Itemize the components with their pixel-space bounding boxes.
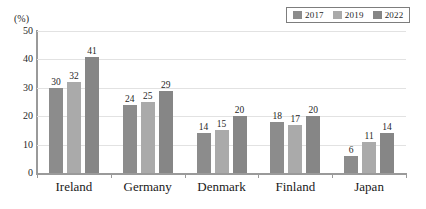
x-label-finland: Finland	[275, 180, 315, 194]
bar-japan-2017[interactable]: 6	[344, 31, 358, 173]
x-tick-3	[258, 174, 259, 178]
bar-rect	[159, 91, 173, 173]
bar-group-japan: 61114	[344, 31, 394, 173]
x-axis-line	[36, 173, 407, 175]
bar-value-label: 6	[349, 145, 354, 155]
bar-group-finland: 181720	[270, 31, 320, 173]
x-label-denmark: Denmark	[197, 180, 245, 194]
bar-germany-2019[interactable]: 25	[141, 31, 155, 173]
bar-group-denmark: 141520	[197, 31, 247, 173]
x-tick-edge-5	[406, 174, 407, 178]
bar-value-label: 32	[69, 71, 79, 81]
legend-swatch-2019	[333, 11, 342, 19]
bar-value-label: 20	[235, 105, 245, 115]
x-tick-2	[185, 174, 186, 178]
y-tick-label-0: 0	[28, 168, 33, 178]
bar-denmark-2017[interactable]: 14	[197, 31, 211, 173]
legend-item-2017[interactable]: 2017	[293, 11, 324, 20]
bar-group-ireland: 303241	[49, 31, 99, 173]
bar-rect	[85, 57, 99, 173]
x-tick-1	[111, 174, 112, 178]
x-label-germany: Germany	[124, 180, 172, 194]
bar-japan-2019[interactable]: 11	[362, 31, 376, 173]
bar-rect	[344, 156, 358, 173]
legend-swatch-2017	[293, 11, 302, 19]
bar-germany-2017[interactable]: 24	[123, 31, 137, 173]
bar-value-label: 14	[382, 122, 392, 132]
bar-rect	[49, 88, 63, 173]
y-axis-tick-labels: 01020304050	[8, 31, 33, 173]
legend-swatch-2022	[373, 11, 382, 19]
x-tick-4	[332, 174, 333, 178]
bar-finland-2017[interactable]: 18	[270, 31, 284, 173]
plot-area: 30324124252914152018172061114	[37, 31, 406, 173]
legend-label-2017: 2017	[305, 11, 324, 20]
bar-value-label: 20	[309, 105, 319, 115]
y-tick-label-20: 20	[23, 111, 33, 121]
x-label-ireland: Ireland	[55, 180, 92, 194]
legend-label-2019: 2019	[345, 11, 364, 20]
bar-ireland-2017[interactable]: 30	[49, 31, 63, 173]
y-tick-label-10: 10	[23, 140, 33, 150]
bar-value-label: 24	[125, 94, 135, 104]
bar-value-label: 29	[161, 80, 171, 90]
bar-rect	[123, 105, 137, 173]
y-axis-unit-label: (%)	[14, 14, 29, 24]
bar-rect	[67, 82, 81, 173]
bar-value-label: 18	[273, 111, 283, 121]
bar-japan-2022[interactable]: 14	[380, 31, 394, 173]
bar-finland-2022[interactable]: 20	[306, 31, 320, 173]
bar-germany-2022[interactable]: 29	[159, 31, 173, 173]
bar-rect	[233, 116, 247, 173]
bar-rect	[270, 122, 284, 173]
legend-item-2019[interactable]: 2019	[333, 11, 364, 20]
bar-value-label: 30	[51, 77, 61, 87]
y-tick-label-50: 50	[23, 26, 33, 36]
chart-legend: 2017 2019 2022	[286, 7, 410, 23]
bar-denmark-2019[interactable]: 15	[215, 31, 229, 173]
bar-value-label: 15	[217, 119, 227, 129]
bar-group-germany: 242529	[123, 31, 173, 173]
bar-value-label: 11	[365, 131, 374, 141]
legend-item-2022[interactable]: 2022	[373, 11, 404, 20]
legend-label-2022: 2022	[385, 11, 404, 20]
bar-finland-2019[interactable]: 17	[288, 31, 302, 173]
bar-chart: 2017 2019 2022 (%) 01020304050 303241242…	[0, 0, 426, 209]
bar-rect	[215, 130, 229, 173]
bar-value-label: 25	[143, 91, 153, 101]
bar-denmark-2022[interactable]: 20	[233, 31, 247, 173]
bar-value-label: 14	[199, 122, 209, 132]
bar-rect	[362, 142, 376, 173]
y-tick-label-30: 30	[23, 83, 33, 93]
bar-ireland-2019[interactable]: 32	[67, 31, 81, 173]
bar-rect	[380, 133, 394, 173]
bar-rect	[306, 116, 320, 173]
bar-ireland-2022[interactable]: 41	[85, 31, 99, 173]
x-label-japan: Japan	[354, 180, 384, 194]
bar-value-label: 17	[291, 114, 301, 124]
bar-rect	[141, 102, 155, 173]
bar-value-label: 41	[87, 46, 97, 56]
bar-rect	[288, 125, 302, 173]
bar-rect	[197, 133, 211, 173]
x-tick-edge-0	[37, 174, 38, 178]
y-tick-label-40: 40	[23, 54, 33, 64]
